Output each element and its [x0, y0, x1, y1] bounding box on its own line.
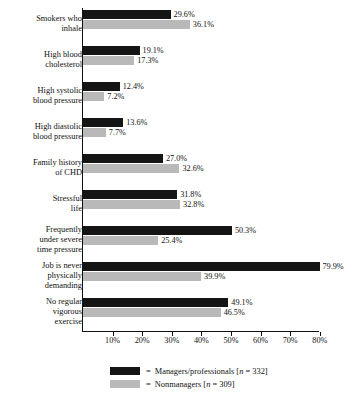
bar [83, 118, 123, 127]
category-row: Job is never physically demanding79.9%39… [0, 260, 358, 296]
bar-item: 7.7% [83, 128, 126, 137]
category-row: High blood cholesterol19.1%17.3% [0, 44, 358, 80]
category-label: No regular vigorous exercise [2, 297, 82, 326]
bar-item: 32.8% [83, 200, 204, 209]
bar [83, 164, 179, 173]
category-row: Stressful life31.8%32.8% [0, 188, 358, 224]
x-axis-tick-label: 80% [300, 336, 340, 346]
bar-item: 25.4% [83, 236, 182, 245]
bar-item: 39.9% [83, 272, 225, 281]
legend-label: Nonmanagers [n = 309] [155, 380, 235, 389]
bar-value-label: 79.9% [320, 262, 344, 271]
category-row: Family history of CHD27.0%32.6% [0, 152, 358, 188]
category-label: Frequently under severe time pressure [2, 225, 82, 254]
bar [83, 20, 190, 29]
category-row: High systolic blood pressure12.4%7.2% [0, 80, 358, 116]
bar-value-label: 25.4% [158, 236, 182, 245]
bar-value-label: 12.4% [120, 82, 144, 91]
bar [83, 262, 320, 271]
bar [83, 82, 120, 91]
chart-legend: =Managers/professionals [n = 332]=Nonman… [110, 361, 340, 387]
bar-item: 12.4% [83, 82, 144, 91]
bar [83, 200, 180, 209]
bar-item: 29.6% [83, 10, 195, 19]
bar [83, 128, 106, 137]
legend-label-prefix: Nonmanagers [ [155, 380, 206, 389]
bar [83, 308, 221, 317]
category-label: High systolic blood pressure [2, 86, 82, 105]
bar-value-label: 17.3% [134, 56, 158, 65]
bar-value-label: 46.5% [221, 308, 245, 317]
bar-value-label: 50.3% [232, 226, 256, 235]
category-row: High diastolic blood pressure13.6%7.7% [0, 116, 358, 152]
bar-value-label: 49.1% [228, 298, 252, 307]
legend-item: =Managers/professionals [n = 332] [110, 361, 340, 374]
bar [83, 154, 163, 163]
legend-swatch [110, 380, 140, 388]
bar-item: 27.0% [83, 154, 187, 163]
bar-item: 32.6% [83, 164, 204, 173]
plot-area: Smokers who inhale29.6%36.1%High blood c… [0, 0, 358, 340]
bar [83, 190, 177, 199]
bar-item: 79.9% [83, 262, 344, 271]
legend-item: =Nonmanagers [n = 309] [110, 374, 340, 387]
category-label: Family history of CHD [2, 158, 82, 177]
bar [83, 92, 104, 101]
caption-remnant [8, 399, 338, 407]
category-label: Stressful life [2, 194, 82, 213]
legend-label-suffix: = 309] [210, 380, 234, 389]
bar [83, 46, 140, 55]
category-label: High diastolic blood pressure [2, 122, 82, 141]
bar-value-label: 19.1% [140, 46, 164, 55]
legend-equals-sign: = [140, 380, 155, 389]
bar [83, 236, 158, 245]
category-label: Job is never physically demanding [2, 261, 82, 290]
bar-item: 17.3% [83, 56, 158, 65]
bar-item: 13.6% [83, 118, 147, 127]
bar-item: 31.8% [83, 190, 201, 199]
bar-value-label: 29.6% [171, 10, 195, 19]
bar-value-label: 7.7% [106, 128, 126, 137]
bar-item: 46.5% [83, 308, 245, 317]
bar-value-label: 36.1% [190, 20, 214, 29]
bar [83, 56, 134, 65]
grouped-bar-chart: Smokers who inhale29.6%36.1%High blood c… [0, 0, 358, 409]
bar [83, 298, 228, 307]
legend-label-suffix: = 332] [243, 367, 267, 376]
bar-value-label: 13.6% [123, 118, 147, 127]
category-row: No regular vigorous exercise49.1%46.5% [0, 296, 358, 332]
bar-value-label: 39.9% [201, 272, 225, 281]
bar-item: 7.2% [83, 92, 124, 101]
category-label: Smokers who inhale [2, 14, 82, 33]
bar-value-label: 27.0% [163, 154, 187, 163]
bar-value-label: 32.8% [180, 200, 204, 209]
bar-value-label: 32.6% [179, 164, 203, 173]
bar-item: 19.1% [83, 46, 164, 55]
category-row: Frequently under severe time pressure50.… [0, 224, 358, 260]
bar-value-label: 31.8% [177, 190, 201, 199]
bar-item: 50.3% [83, 226, 256, 235]
category-label: High blood cholesterol [2, 50, 82, 69]
bar-item: 49.1% [83, 298, 252, 307]
bar [83, 10, 171, 19]
bar-value-label: 7.2% [104, 92, 124, 101]
bar [83, 272, 201, 281]
category-row: Smokers who inhale29.6%36.1% [0, 8, 358, 44]
bar-item: 36.1% [83, 20, 214, 29]
bar [83, 226, 232, 235]
